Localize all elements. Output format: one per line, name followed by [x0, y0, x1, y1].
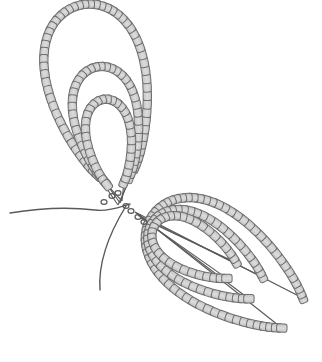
knot-layer: [101, 191, 147, 225]
thread-knot: [101, 200, 107, 205]
thread-tail-down: [100, 206, 126, 290]
bead: [222, 274, 232, 282]
thread-knot: [115, 191, 121, 196]
bead-layer: [40, 0, 309, 332]
thread-knot: [128, 209, 134, 214]
bead-diagram-canvas: [0, 0, 322, 362]
thread-tail-left: [10, 204, 130, 213]
bead: [244, 294, 254, 302]
bead-loop-inner: [81, 95, 136, 192]
bead: [276, 324, 287, 333]
bead-diagram: [0, 0, 322, 362]
lower-right-loops: [141, 193, 309, 332]
upper-left-loops: [40, 0, 152, 192]
